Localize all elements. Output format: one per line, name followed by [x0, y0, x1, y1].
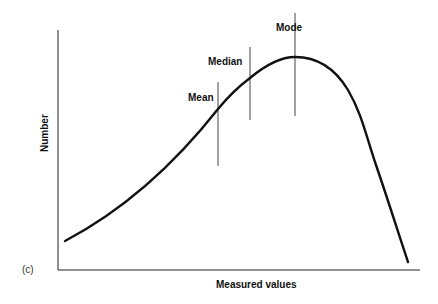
mode-label: Mode: [276, 22, 303, 33]
y-axis-label: Number: [39, 114, 50, 152]
distribution-curve: [65, 57, 408, 262]
panel-label: (c): [22, 264, 34, 275]
x-axis-label: Measured values: [216, 279, 297, 290]
mean-label: Mean: [188, 92, 214, 103]
median-label: Median: [208, 56, 242, 67]
skewed-distribution-chart: Mode Median Mean Number Measured values …: [0, 0, 438, 304]
